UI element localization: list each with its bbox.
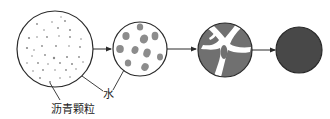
stage-3-coalescence [198, 23, 252, 77]
floc-core [221, 45, 228, 59]
water-leader-line-2 [113, 70, 124, 90]
water-leader-line-1 [82, 76, 103, 91]
stage-2-flocculation [113, 22, 167, 76]
label-water: 水 [103, 88, 114, 101]
label-asphalt-particles: 沥青颗粒 [51, 102, 95, 116]
stage-4-circle [276, 27, 322, 73]
stage-1-dispersed-particles [17, 11, 93, 87]
stage-4-continuous-film [276, 27, 322, 73]
stage-1-circle [17, 11, 93, 87]
emulsion-breaking-diagram: 水 沥青颗粒 [0, 0, 330, 119]
